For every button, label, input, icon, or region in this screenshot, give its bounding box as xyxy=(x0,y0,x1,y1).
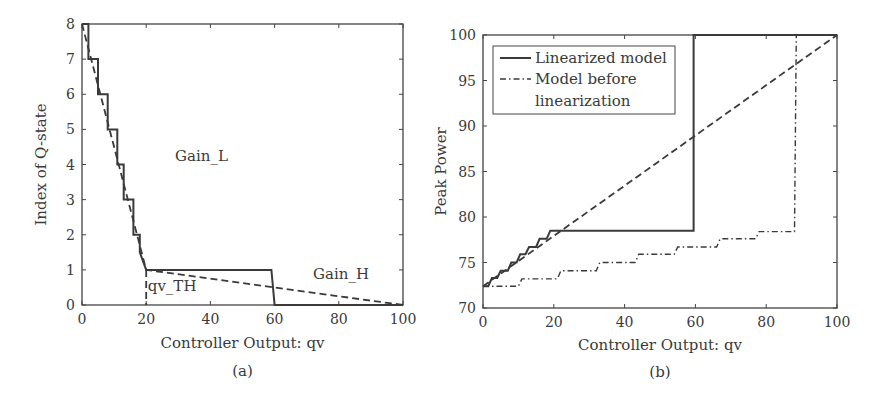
x-tick-label: 80 xyxy=(757,314,775,330)
figure: 020406080100012345678 Gain_LGain_Hqv_TH … xyxy=(0,0,877,406)
panel-a-annotations: Gain_LGain_Hqv_TH xyxy=(148,147,369,295)
x-tick-label: 0 xyxy=(479,314,488,330)
panel-a-series xyxy=(82,24,403,305)
panel-a-plot-frame xyxy=(82,24,403,305)
panel-b-chart: 020406080100707580859095100 Linearized m… xyxy=(432,27,850,381)
legend-label-linearized: Linearized model xyxy=(535,49,667,67)
y-tick-label: 95 xyxy=(458,73,476,89)
panel-a-caption: (a) xyxy=(232,362,253,380)
panel-a-chart: 020406080100012345678 Gain_LGain_Hqv_TH … xyxy=(32,16,416,380)
panel-b-legend: Linearized model Model before linearizat… xyxy=(493,46,675,114)
x-tick-label: 80 xyxy=(330,311,348,327)
legend-label-before: Model before xyxy=(535,70,637,88)
annotation-label: Gain_L xyxy=(175,147,228,165)
x-tick-label: 100 xyxy=(824,314,851,330)
panel-a-y-axis-label: Index of Q-state xyxy=(32,103,50,225)
legend-label-before-line2: linearization xyxy=(535,92,631,110)
panel-b-y-axis-label: Peak Power xyxy=(432,126,450,215)
y-tick-label: 6 xyxy=(66,86,75,102)
y-tick-label: 5 xyxy=(66,121,75,137)
y-tick-label: 2 xyxy=(66,227,75,243)
x-tick-label: 40 xyxy=(201,311,219,327)
panel-b-x-axis-label: Controller Output: qv xyxy=(578,336,743,354)
y-tick-label: 80 xyxy=(458,209,476,225)
x-tick-label: 40 xyxy=(616,314,634,330)
x-tick-label: 100 xyxy=(390,311,417,327)
panel-b-caption: (b) xyxy=(649,363,670,381)
annotation-label: Gain_H xyxy=(313,265,369,283)
y-tick-label: 100 xyxy=(449,27,476,43)
x-tick-label: 60 xyxy=(686,314,704,330)
y-tick-label: 70 xyxy=(458,300,476,316)
y-tick-label: 90 xyxy=(458,118,476,134)
x-tick-label: 60 xyxy=(266,311,284,327)
x-tick-label: 20 xyxy=(137,311,155,327)
y-tick-label: 4 xyxy=(66,157,75,173)
y-tick-label: 8 xyxy=(66,16,75,32)
series-line xyxy=(82,24,403,305)
y-tick-label: 75 xyxy=(458,255,476,271)
y-tick-label: 3 xyxy=(66,192,75,208)
series-line xyxy=(82,24,403,305)
y-tick-label: 0 xyxy=(66,297,75,313)
annotation-label: qv_TH xyxy=(148,277,197,295)
y-tick-label: 85 xyxy=(458,164,476,180)
x-tick-label: 20 xyxy=(545,314,563,330)
y-tick-label: 7 xyxy=(66,51,75,67)
panel-a-x-axis-label: Controller Output: qv xyxy=(161,334,326,352)
y-tick-label: 1 xyxy=(66,262,75,278)
x-tick-label: 0 xyxy=(78,311,87,327)
